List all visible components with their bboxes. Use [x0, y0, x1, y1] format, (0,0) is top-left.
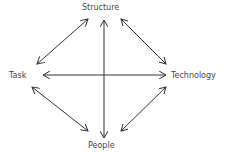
- arrow-technology-people: [121, 87, 166, 131]
- node-people: People: [88, 141, 115, 151]
- arrow-structure-task: [37, 19, 88, 64]
- arrow-structure-technology: [121, 19, 166, 64]
- node-technology: Technology: [171, 71, 216, 81]
- leavitt-diamond-diagram: Structure Task Technology People: [0, 0, 227, 159]
- node-structure: Structure: [82, 3, 119, 13]
- node-task: Task: [9, 71, 26, 81]
- arrow-task-people: [32, 87, 88, 131]
